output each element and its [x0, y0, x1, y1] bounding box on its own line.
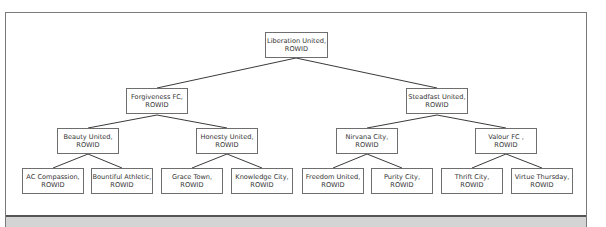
node-freedom-united[interactable]: Freedom United, ROWID: [302, 168, 364, 194]
node-sub: ROWID: [250, 181, 273, 189]
node-label: Honesty United,: [200, 133, 253, 141]
node-label: Forgiveness FC,: [131, 93, 183, 101]
node-sub: ROWID: [460, 181, 483, 189]
node-sub: ROWID: [110, 181, 133, 189]
edge-n6-n14: [506, 154, 542, 168]
node-sub: ROWID: [390, 181, 413, 189]
edge-n6-n13: [472, 154, 506, 168]
node-label: Bountiful Athletic,: [93, 173, 152, 181]
node-steadfast-united[interactable]: Steadfast United, ROWID: [406, 88, 468, 114]
node-thrift-city[interactable]: Thrift City, ROWID: [441, 168, 503, 194]
node-sub: ROWID: [180, 181, 203, 189]
edge-n2-n6: [437, 115, 506, 128]
node-label: Grace Town,: [172, 173, 212, 181]
edge-n3-n7: [53, 154, 88, 168]
node-bountiful-athletic[interactable]: Bountiful Athletic, ROWID: [91, 168, 153, 194]
node-label: Steadfast United,: [408, 93, 465, 101]
node-liberation-united[interactable]: Liberation United, ROWID: [265, 32, 328, 58]
edge-n5-n11: [333, 154, 367, 168]
edge-n5-n12: [367, 154, 402, 168]
edge-n1-n4: [157, 115, 227, 128]
edge-n0-n2: [296, 58, 437, 88]
node-label: Thrift City,: [455, 173, 490, 181]
bottom-panel: [6, 215, 586, 227]
node-forgiveness-fc[interactable]: Forgiveness FC, ROWID: [126, 88, 188, 114]
node-virtue-thursday[interactable]: Virtue Thursday, ROWID: [511, 168, 573, 194]
node-sub: ROWID: [76, 141, 99, 149]
node-sub: ROWID: [145, 101, 168, 109]
node-label: Valour FC ,: [488, 133, 523, 141]
node-label: Virtue Thursday,: [515, 173, 570, 181]
node-sub: ROWID: [494, 141, 517, 149]
node-purity-city[interactable]: Purity City, ROWID: [371, 168, 433, 194]
node-label: Purity City,: [384, 173, 420, 181]
edge-n4-n9: [192, 154, 227, 168]
node-nirvana-city[interactable]: Nirvana City, ROWID: [336, 128, 398, 154]
node-knowledge-city[interactable]: Knowledge City, ROWID: [231, 168, 293, 194]
node-sub: ROWID: [285, 45, 308, 53]
edge-n3-n8: [88, 154, 122, 168]
edge-n4-n10: [227, 154, 262, 168]
node-label: Nirvana City,: [346, 133, 389, 141]
node-label: AC Compassion,: [26, 173, 79, 181]
edge-n2-n5: [367, 115, 437, 128]
edge-n1-n3: [88, 115, 157, 128]
node-beauty-united[interactable]: Beauty United, ROWID: [57, 128, 119, 154]
node-sub: ROWID: [355, 141, 378, 149]
node-sub: ROWID: [215, 141, 238, 149]
node-honesty-united[interactable]: Honesty United, ROWID: [196, 128, 258, 154]
node-label: Knowledge City,: [235, 173, 288, 181]
node-sub: ROWID: [530, 181, 553, 189]
edge-n0-n1: [157, 58, 296, 88]
node-ac-compassion[interactable]: AC Compassion, ROWID: [22, 168, 84, 194]
node-valour-fc[interactable]: Valour FC , ROWID: [475, 128, 537, 154]
node-sub: ROWID: [425, 101, 448, 109]
node-label: Beauty United,: [63, 133, 112, 141]
node-label: Freedom United,: [306, 173, 361, 181]
node-sub: ROWID: [41, 181, 64, 189]
node-label: Liberation United,: [267, 37, 326, 45]
node-sub: ROWID: [321, 181, 344, 189]
node-grace-town[interactable]: Grace Town, ROWID: [161, 168, 223, 194]
